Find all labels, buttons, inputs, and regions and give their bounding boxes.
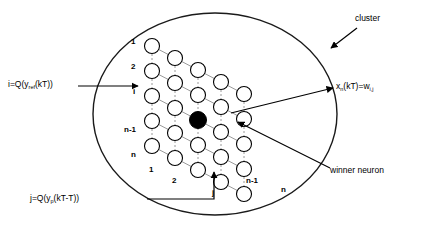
neuron-node: [145, 39, 160, 54]
output-x-sub2: i,j: [370, 86, 374, 92]
input-i-label: i=Q(yref(kT)): [8, 80, 53, 89]
row-label-n: n: [131, 151, 136, 159]
input-j-base: j=Q(y: [30, 193, 51, 203]
neuron-node: [237, 162, 252, 177]
col-label-1: 1: [149, 166, 153, 174]
row-label-n-1: n-1: [124, 126, 136, 134]
neuron-node: [168, 51, 183, 66]
input-j-sub: p: [51, 198, 54, 204]
neuron-node: [145, 139, 160, 154]
col-label-2: 2: [172, 177, 176, 185]
col-label-j: j: [212, 189, 214, 197]
neuron-node: [168, 76, 183, 91]
neuron-node: [237, 187, 252, 202]
neuron-node: [145, 64, 160, 79]
neuron-node: [214, 125, 229, 140]
neuron-node: [214, 100, 229, 115]
row-label-i: i: [133, 88, 135, 96]
neuron-node: [191, 138, 206, 153]
neuron-node: [145, 114, 160, 129]
neuron-node: [191, 88, 206, 103]
input-j-arrow: [147, 172, 214, 199]
output-x-sub: n: [340, 86, 343, 92]
neuron-node: [237, 87, 252, 102]
input-i-tail: (kT)): [35, 79, 53, 89]
neuron-node: [214, 75, 229, 90]
input-j-label: j=Q(yp(kT-T)): [30, 194, 79, 203]
winner-neuron-label: winner neuron: [330, 166, 384, 175]
row-label-1: 1: [131, 38, 135, 46]
cluster-label: cluster: [355, 14, 380, 23]
neuron-node: [145, 89, 160, 104]
row-label-2: 2: [131, 63, 135, 71]
output-x-mid: (kT)=w: [343, 81, 369, 91]
output-x-label: xn(kT)=wi,j: [336, 82, 374, 91]
neuron-node: [168, 101, 183, 116]
lattice-nodes: [145, 39, 252, 202]
winner-neuron-node: [190, 112, 207, 129]
neuron-node: [191, 163, 206, 178]
diagram-canvas: 1 2 i n-1 n 1 2 j n-1 n i=Q(yref(kT)) j=…: [0, 0, 426, 233]
input-i-base: i=Q(y: [8, 79, 29, 89]
neuron-node: [237, 137, 252, 152]
neuron-node: [237, 112, 252, 127]
input-j-tail: (kT-T)): [54, 193, 80, 203]
col-label-n-1: n-1: [246, 177, 258, 185]
neuron-node: [168, 151, 183, 166]
neuron-node: [191, 63, 206, 78]
col-label-n: n: [281, 186, 286, 194]
input-i-sub: ref: [29, 84, 35, 90]
cluster-leader-arrow: [331, 28, 357, 48]
neuron-node: [168, 126, 183, 141]
neuron-node: [214, 150, 229, 165]
neuron-node: [214, 175, 229, 190]
